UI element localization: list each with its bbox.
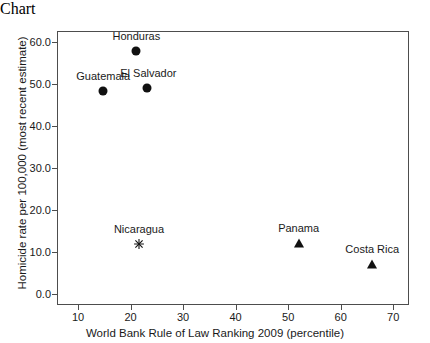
y-tick-mark: [52, 210, 57, 211]
x-tick-label: 20: [124, 311, 136, 323]
y-tick-label: 20.0: [30, 204, 51, 216]
data-point-honduras[interactable]: [132, 46, 141, 55]
y-tick-label: 30.0: [30, 162, 51, 174]
x-tick-mark: [78, 305, 79, 310]
data-point-label: Panama: [278, 222, 319, 234]
y-tick-mark: [52, 42, 57, 43]
data-point-el-salvador[interactable]: [143, 83, 152, 92]
y-tick-mark: [52, 84, 57, 85]
x-tick-mark: [393, 305, 394, 310]
y-tick-mark: [52, 126, 57, 127]
x-tick-mark: [288, 305, 289, 310]
x-axis-label: World Bank Rule of Law Ranking 2009 (per…: [0, 327, 430, 339]
circle-marker-icon: [132, 46, 141, 55]
x-tick-label: 40: [230, 311, 242, 323]
triangle-marker-icon: [294, 239, 304, 248]
data-point-label: El Salvador: [120, 67, 176, 79]
y-tick-mark: [52, 168, 57, 169]
star-marker-icon: [133, 238, 144, 249]
data-point-label: Costa Rica: [345, 243, 399, 255]
x-tick-label: 30: [177, 311, 189, 323]
x-tick-label: 60: [335, 311, 347, 323]
y-tick-label: 50.0: [30, 78, 51, 90]
data-point-label: Nicaragua: [114, 223, 164, 235]
data-point-costa-rica[interactable]: [367, 259, 377, 268]
circle-marker-icon: [99, 86, 108, 95]
data-point-guatemala[interactable]: [99, 86, 108, 95]
circle-marker-icon: [143, 83, 152, 92]
x-tick-mark: [341, 305, 342, 310]
x-tick-mark: [183, 305, 184, 310]
y-tick-label: 60.0: [30, 36, 51, 48]
data-point-panama[interactable]: [294, 239, 304, 248]
x-tick-label: 70: [387, 311, 399, 323]
x-tick-label: 10: [72, 311, 84, 323]
y-tick-label: 0.0: [36, 288, 51, 300]
y-tick-mark: [52, 252, 57, 253]
data-point-nicaragua[interactable]: [133, 238, 144, 249]
triangle-marker-icon: [367, 259, 377, 268]
y-tick-label: 10.0: [30, 246, 51, 258]
x-tick-label: 50: [282, 311, 294, 323]
y-tick-label: 40.0: [30, 120, 51, 132]
data-point-label: Honduras: [112, 30, 160, 42]
x-tick-mark: [236, 305, 237, 310]
y-tick-mark: [52, 294, 57, 295]
y-axis-label: Homicide rate per 100,000 (most recent e…: [16, 18, 28, 308]
plot-area: GuatemalaHondurasEl SalvadorNicaraguaPan…: [57, 31, 409, 305]
x-tick-mark: [131, 305, 132, 310]
scatter-chart-figure: GuatemalaHondurasEl SalvadorNicaraguaPan…: [0, 18, 430, 343]
